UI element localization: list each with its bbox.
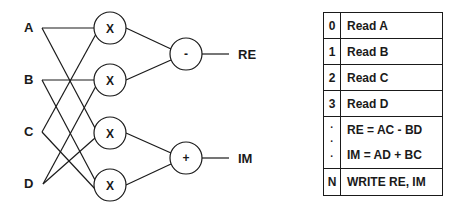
table-row: N WRITE RE, IM [324, 169, 442, 195]
complex-multiply-dataflow-diagram: A B C D X X X X - + RE IM [0, 0, 300, 207]
row-instruction: Read D [341, 91, 442, 116]
add-node: + [170, 142, 202, 174]
row-index: 0 [324, 13, 341, 38]
output-label-im: IM [238, 151, 252, 166]
multiplier-node-4: X [94, 169, 126, 201]
row-instruction: Read B [341, 39, 442, 64]
input-wires [42, 28, 96, 190]
row-index: 1 [324, 39, 341, 64]
ellipsis-dot: · [330, 152, 333, 162]
input-label-b: B [24, 72, 33, 87]
multiplier-node-3: X [94, 117, 126, 149]
input-label-a: A [24, 20, 34, 35]
table-row: 0 Read A [324, 13, 442, 39]
minus-symbol: - [184, 47, 188, 61]
multiply-symbol: X [106, 74, 114, 88]
row-instruction: Read A [341, 13, 442, 38]
multiplier-node-2: X [94, 64, 126, 96]
multiply-symbol: X [106, 22, 114, 36]
ellipsis-dot: · [330, 123, 333, 133]
re-formula: RE = AC - BD [347, 123, 422, 137]
output-wires [202, 54, 229, 158]
product-wires [126, 28, 171, 185]
table-row: 2 Read C [324, 65, 442, 91]
row-index: 3 [324, 91, 341, 116]
multiply-symbol: X [106, 127, 114, 141]
input-label-d: D [24, 176, 33, 191]
row-index-ellipsis: · · · [324, 117, 341, 168]
program-table: 0 Read A 1 Read B 2 Read C 3 Read D · · … [323, 12, 443, 196]
table-row-compute: · · · RE = AC - BD IM = AD + BC [324, 117, 442, 169]
table-row: 1 Read B [324, 39, 442, 65]
row-instructions: RE = AC - BD IM = AD + BC [341, 117, 442, 168]
row-index: 2 [324, 65, 341, 90]
multiply-symbol: X [106, 179, 114, 193]
plus-symbol: + [182, 151, 189, 165]
ellipsis-dot: · [330, 137, 333, 147]
subtract-node: - [170, 38, 202, 70]
input-label-c: C [24, 124, 34, 139]
row-instruction: WRITE RE, IM [341, 169, 442, 195]
table-row: 3 Read D [324, 91, 442, 117]
output-label-re: RE [238, 47, 256, 62]
multiplier-node-1: X [94, 12, 126, 44]
row-instruction: Read C [341, 65, 442, 90]
im-formula: IM = AD + BC [347, 148, 422, 162]
row-index: N [324, 169, 341, 195]
